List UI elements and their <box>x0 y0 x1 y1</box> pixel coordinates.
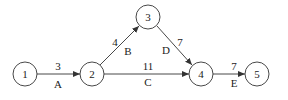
edge-E-duration: 7 <box>231 61 237 72</box>
edge-A-activity: A <box>54 79 62 90</box>
edge-D-duration: 7 <box>177 37 183 48</box>
edge-C-activity: C <box>144 77 151 88</box>
edge-B <box>100 26 139 65</box>
edge-D-activity: D <box>162 45 170 56</box>
edge-B-activity: B <box>124 46 131 57</box>
edge-B-duration: 4 <box>112 37 118 48</box>
edge-E-activity: E <box>231 78 238 89</box>
edge-C-duration: 11 <box>143 61 154 72</box>
node-4-label: 4 <box>198 69 204 80</box>
node-2-label: 2 <box>89 69 95 80</box>
node-1-label: 1 <box>22 69 28 80</box>
node-3-label: 3 <box>145 12 151 23</box>
edge-A-duration: 3 <box>55 61 61 72</box>
node-5-label: 5 <box>254 69 260 80</box>
